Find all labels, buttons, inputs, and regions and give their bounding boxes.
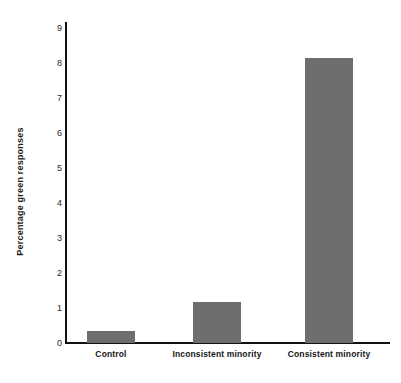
- x-tick-label: Consistent minority: [249, 349, 401, 359]
- x-axis-category-labels: ControlInconsistent minorityConsistent m…: [0, 0, 401, 383]
- bar-chart: Percentage green responses 0123456789 Co…: [0, 0, 401, 383]
